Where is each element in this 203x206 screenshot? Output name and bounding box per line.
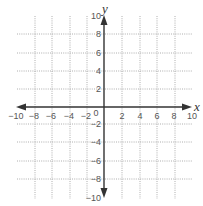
coordinate-plane: x y −10 −8 −6 −4 −2 2 4 6 8 10 0 10 8 6 … bbox=[0, 0, 203, 206]
y-tick-label: 10 bbox=[91, 11, 101, 21]
y-tick-label: −2 bbox=[91, 119, 101, 129]
origin-label: 0 bbox=[93, 108, 98, 118]
x-tick-label: −8 bbox=[29, 111, 39, 121]
x-tick-label: 4 bbox=[137, 111, 142, 121]
x-tick-label: −2 bbox=[81, 111, 91, 121]
y-tick-label: −6 bbox=[91, 156, 101, 166]
y-axis: y bbox=[100, 1, 108, 198]
y-axis-label: y bbox=[100, 1, 108, 16]
y-tick-label: 6 bbox=[96, 48, 101, 58]
y-axis-down-arrow-icon bbox=[101, 188, 108, 198]
y-tick-label: −10 bbox=[86, 193, 101, 203]
x-tick-label: −6 bbox=[46, 111, 56, 121]
x-tick-label: 6 bbox=[154, 111, 159, 121]
x-tick-label: 2 bbox=[119, 111, 124, 121]
y-tick-label: 8 bbox=[96, 29, 101, 39]
x-axis-left-arrow-icon bbox=[16, 104, 26, 111]
x-tick-labels: −10 −8 −6 −4 −2 2 4 6 8 10 bbox=[8, 111, 197, 121]
y-tick-label: −4 bbox=[91, 137, 101, 147]
x-tick-label: −10 bbox=[8, 111, 23, 121]
x-tick-label: 8 bbox=[171, 111, 176, 121]
x-tick-label: −4 bbox=[64, 111, 74, 121]
x-tick-label: 10 bbox=[187, 111, 197, 121]
y-axis-up-arrow-icon bbox=[101, 15, 108, 25]
y-tick-label: 2 bbox=[96, 84, 101, 94]
y-tick-label: −8 bbox=[91, 174, 101, 184]
x-axis-right-arrow-icon bbox=[182, 104, 192, 111]
y-tick-label: 4 bbox=[96, 66, 101, 76]
